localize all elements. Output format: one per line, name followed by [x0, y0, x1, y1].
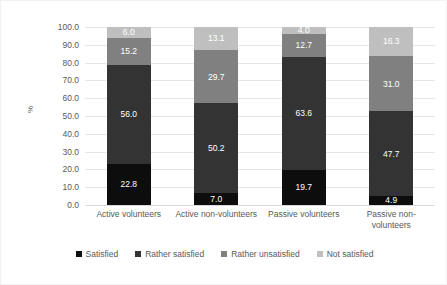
bar-segment-value-label: 4.9 [385, 196, 397, 205]
bar-column: 13.129.750.27.0 [194, 27, 238, 205]
y-axis-tick-label: 80.0 [39, 58, 79, 67]
x-axis-category-label: Passive volunteers [262, 209, 346, 243]
bar-segment-value-label: 19.7 [295, 183, 312, 192]
legend-item[interactable]: Rather unsatisfied [221, 250, 300, 259]
bar-segment-value-label: 4.0 [298, 27, 310, 34]
gridline [85, 205, 435, 206]
bar-segment-value-label: 56.0 [120, 110, 137, 119]
y-axis-tick-labels: 100.090.080.070.060.050.040.030.020.010.… [39, 27, 79, 205]
legend-item-label: Not satisfied [327, 250, 374, 259]
y-axis-tick-label: 20.0 [39, 165, 79, 174]
legend-swatch-icon [76, 251, 82, 257]
legend-item-label: Rather unsatisfied [231, 250, 300, 259]
legend-swatch-icon [221, 251, 227, 257]
bar-segment-value-label: 7.0 [210, 195, 222, 204]
bar-segment: 6.0 [107, 27, 151, 38]
bar-segment-value-label: 47.7 [383, 150, 400, 159]
x-axis-category-label: Passive non-volunteers [349, 209, 433, 243]
bar-segment: 29.7 [194, 50, 238, 103]
bar-segment-value-label: 50.2 [208, 144, 225, 153]
y-axis-tick-label: 0.0 [39, 201, 79, 210]
bar-column: 6.015.256.022.8 [107, 27, 151, 205]
bar-segment: 4.9 [369, 196, 413, 205]
bar-segment: 56.0 [107, 65, 151, 165]
x-axis-category-labels: Active volunteersActive non-volunteersPa… [85, 209, 435, 243]
bar-column: 16.331.047.74.9 [369, 27, 413, 205]
y-axis-tick-label: 30.0 [39, 147, 79, 156]
bar-segment: 16.3 [369, 27, 413, 56]
chart-legend: SatisfiedRather satisfiedRather unsatisf… [1, 250, 447, 259]
bar-segment-value-label: 15.2 [120, 47, 137, 56]
bar-segment: 31.0 [369, 56, 413, 111]
bar-column: 4.012.763.619.7 [282, 27, 326, 205]
plot-wrapper: % 100.090.080.070.060.050.040.030.020.01… [1, 1, 447, 245]
bar-segment: 7.0 [194, 193, 238, 205]
legend-item[interactable]: Satisfied [76, 250, 119, 259]
bar-segment: 47.7 [369, 111, 413, 196]
legend-item-label: Rather satisfied [145, 250, 204, 259]
y-axis-tick-label: 100.0 [39, 23, 79, 32]
bar-segment-value-label: 31.0 [383, 80, 400, 89]
bar-segment-value-label: 22.8 [120, 180, 137, 189]
y-axis-tick-label: 50.0 [39, 112, 79, 121]
x-axis-category-label: Active volunteers [87, 209, 171, 243]
bar-segment: 22.8 [107, 164, 151, 205]
legend-swatch-icon [135, 251, 141, 257]
y-axis-tick-label: 60.0 [39, 94, 79, 103]
bar-segment: 50.2 [194, 103, 238, 192]
y-axis-tick-label: 40.0 [39, 130, 79, 139]
plot-area: 6.015.256.022.813.129.750.27.04.012.763.… [85, 27, 435, 205]
bar-segment-value-label: 13.1 [208, 34, 225, 43]
bar-segment: 12.7 [282, 34, 326, 57]
chart-container: % 100.090.080.070.060.050.040.030.020.01… [0, 0, 447, 285]
y-axis-tick-label: 90.0 [39, 41, 79, 50]
bar-segment: 4.0 [282, 27, 326, 34]
bar-segment-value-label: 6.0 [123, 28, 135, 37]
bar-segment: 15.2 [107, 38, 151, 65]
bar-segment: 63.6 [282, 57, 326, 170]
legend-item[interactable]: Rather satisfied [135, 250, 204, 259]
legend-item-label: Satisfied [86, 250, 119, 259]
y-axis-title: % [26, 103, 35, 117]
bar-segment-value-label: 16.3 [383, 37, 400, 46]
bar-segment: 19.7 [282, 170, 326, 205]
y-axis-tick-label: 70.0 [39, 76, 79, 85]
bar-segment: 13.1 [194, 27, 238, 50]
x-axis-category-label: Active non-volunteers [174, 209, 258, 243]
bar-segment-value-label: 29.7 [208, 73, 225, 82]
legend-item[interactable]: Not satisfied [317, 250, 374, 259]
y-axis-tick-label: 10.0 [39, 183, 79, 192]
bar-segment-value-label: 63.6 [295, 109, 312, 118]
bar-segment-value-label: 12.7 [295, 41, 312, 50]
legend-swatch-icon [317, 251, 323, 257]
bar-group: 6.015.256.022.813.129.750.27.04.012.763.… [85, 27, 435, 205]
